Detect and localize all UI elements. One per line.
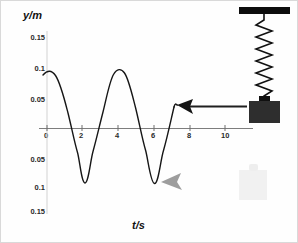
trough-indicator-arrow	[161, 173, 182, 190]
ceiling-support-bar	[239, 7, 290, 14]
chart-canvas	[1, 1, 298, 243]
figure-panel: y/m t/s 0.15 0.1 0.05 0.05 0.1 0.15 0 2 …	[0, 0, 298, 243]
mass-block	[249, 101, 280, 123]
displacement-curve-tail	[174, 104, 178, 107]
spring-coil	[256, 14, 272, 100]
